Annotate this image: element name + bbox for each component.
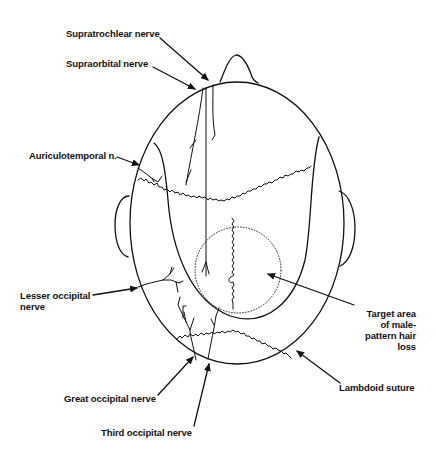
arrow-lesser-occipital (93, 288, 137, 295)
label-line: loss (358, 341, 416, 352)
label-line: pattern hair (358, 330, 416, 341)
lesser-occipital-nerve (138, 267, 183, 292)
supratrochlear-nerve (202, 88, 209, 276)
head-outline (130, 82, 344, 364)
auriculotemporal-nerve (138, 168, 162, 182)
label-line: nerve (20, 301, 90, 312)
label-supratrochlear-nerve: Supratrochlear nerve (66, 28, 160, 39)
label-auriculotemporal-nerve: Auriculotemporal n. (29, 150, 117, 161)
arrow-third-occipital (194, 364, 209, 426)
lambdoid-suture (177, 330, 291, 358)
label-lambdoid-suture: Lambdoid suture (339, 382, 415, 393)
nose-outline (220, 55, 258, 83)
great-occipital-nerve (178, 297, 196, 360)
label-third-occipital-nerve: Third occipital nerve (101, 427, 192, 438)
left-ear (115, 196, 129, 257)
temporal-boundary-line (154, 137, 319, 319)
arrow-auriculotemporal (117, 157, 139, 165)
supraorbital-nerve (186, 88, 203, 185)
arrow-lambdoid (297, 351, 340, 383)
label-supraorbital-nerve: Supraorbital nerve (66, 58, 148, 69)
coronal-suture (138, 166, 311, 201)
label-target-area: Target area of male- pattern hair loss (358, 308, 416, 352)
arrow-target-area (268, 274, 354, 305)
label-line: Target area (358, 308, 416, 319)
supraorbital-nerve-branch (212, 85, 215, 140)
label-great-occipital-nerve: Great occipital nerve (64, 393, 156, 404)
label-line: of male- (358, 319, 416, 330)
sagittal-suture (229, 218, 234, 309)
label-lesser-occipital-nerve: Lesser occipital nerve (20, 290, 90, 312)
arrow-supraorbital (153, 67, 195, 89)
label-line: Lesser occipital (20, 290, 90, 301)
arrow-supratrochlear (160, 38, 208, 80)
arrow-great-occipital (158, 357, 193, 395)
